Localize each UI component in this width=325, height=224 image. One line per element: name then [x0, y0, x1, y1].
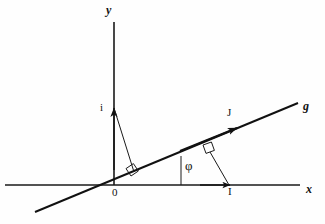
x-axis-label: x: [306, 183, 312, 195]
perpendicular-from-i-tip: [114, 108, 134, 172]
line-g: [35, 103, 298, 212]
origin-label: 0: [112, 187, 118, 198]
vector-i-label: i: [100, 102, 103, 113]
geometry-figure: x y g 0 I i J φ: [0, 0, 325, 224]
point-I-label: I: [228, 186, 232, 197]
y-axis-label: y: [106, 4, 111, 16]
line-g-label: g: [303, 100, 309, 112]
vector-J-label: J: [227, 107, 231, 118]
angle-phi-label: φ: [185, 159, 193, 172]
geometry-canvas: [0, 0, 325, 224]
perpendicular-from-I: [210, 152, 229, 185]
vector-J-arrow: [180, 128, 237, 151]
right-angle-mark-near-J: [203, 142, 214, 153]
